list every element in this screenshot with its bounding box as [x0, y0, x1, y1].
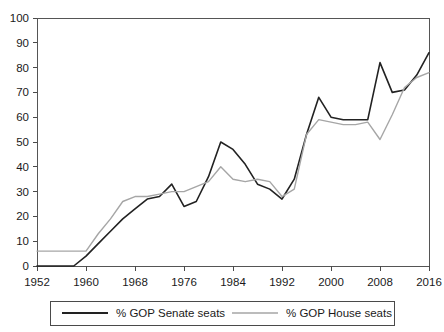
x-tick-label: 2008: [367, 276, 393, 288]
legend-label-senate: % GOP Senate seats: [116, 307, 225, 319]
series-line-senate: [37, 53, 429, 266]
y-tick-label: 70: [16, 86, 29, 98]
y-tick-label: 0: [23, 260, 29, 272]
y-tick-label: 80: [16, 62, 29, 74]
x-tick-label: 1960: [73, 276, 99, 288]
plot-frame: [37, 18, 429, 266]
y-tick-label: 50: [16, 136, 29, 148]
y-tick-label: 90: [16, 37, 29, 49]
y-tick-label: 10: [16, 235, 29, 247]
y-tick-label: 40: [16, 161, 29, 173]
x-tick-label: 2000: [318, 276, 344, 288]
y-tick-label: 60: [16, 111, 29, 123]
y-tick-label: 30: [16, 186, 29, 198]
y-tick-label: 20: [16, 210, 29, 222]
legend-label-house: % GOP House seats: [286, 307, 392, 319]
x-tick-label: 1952: [24, 276, 50, 288]
line-chart: 0102030405060708090100195219601968197619…: [0, 0, 444, 332]
x-tick-label: 1992: [269, 276, 295, 288]
x-tick-label: 1976: [171, 276, 197, 288]
x-tick-label: 2016: [416, 276, 442, 288]
chart-figure: 0102030405060708090100195219601968197619…: [0, 0, 444, 332]
series-line-house: [37, 73, 429, 252]
y-tick-label: 100: [10, 12, 29, 24]
x-tick-label: 1968: [122, 276, 148, 288]
x-tick-label: 1984: [220, 276, 246, 288]
